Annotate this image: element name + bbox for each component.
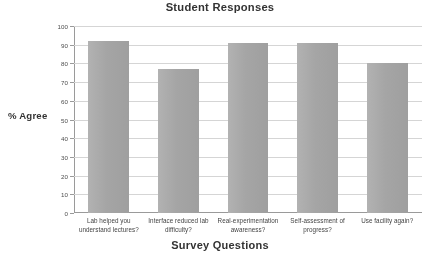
y-axis-tick-label: 20: [61, 172, 68, 179]
bar: [158, 69, 199, 213]
y-axis-tick: [70, 45, 74, 46]
y-axis-title: % Agree: [8, 110, 47, 121]
y-axis-tick-label: 100: [57, 23, 68, 30]
y-axis-tick-label: 0: [64, 210, 68, 217]
plot-area: 1009080706050403020100Lab helped you und…: [74, 26, 422, 213]
y-axis-tick: [70, 101, 74, 102]
x-axis-category-label: Lab helped you understand lectures?: [73, 216, 145, 234]
x-axis-category-label: Real-experimentation awareness?: [212, 216, 284, 234]
y-axis-tick-label: 10: [61, 191, 68, 198]
y-axis-tick: [70, 63, 74, 64]
x-axis-category-label: Self-assessment of progress?: [281, 216, 353, 234]
y-axis-tick-label: 80: [61, 60, 68, 67]
y-axis-tick-label: 60: [61, 97, 68, 104]
bar: [88, 41, 129, 213]
y-axis-tick: [70, 176, 74, 177]
bar: [297, 43, 338, 213]
y-axis-tick: [70, 120, 74, 121]
bar-chart: Student Responses % Agree 10090807060504…: [0, 0, 440, 258]
y-axis-tick-label: 70: [61, 79, 68, 86]
y-axis-tick: [70, 82, 74, 83]
y-axis-tick-label: 90: [61, 41, 68, 48]
y-axis-tick: [70, 26, 74, 27]
y-axis-tick: [70, 194, 74, 195]
y-axis-tick: [70, 138, 74, 139]
y-axis-tick-label: 50: [61, 116, 68, 123]
x-axis-category-label: Use facility again?: [351, 216, 423, 225]
bar: [228, 43, 269, 213]
y-axis-tick-label: 30: [61, 153, 68, 160]
gridline: [74, 26, 422, 27]
bar: [367, 63, 408, 213]
y-axis-tick: [70, 157, 74, 158]
chart-title: Student Responses: [0, 1, 440, 13]
y-axis-tick-label: 40: [61, 135, 68, 142]
x-axis-category-label: Interface reduced lab difficulty?: [142, 216, 214, 234]
y-axis-tick: [70, 213, 74, 214]
x-axis-title: Survey Questions: [0, 239, 440, 251]
